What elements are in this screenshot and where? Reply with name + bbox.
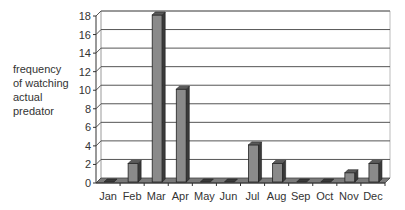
y-tick-label: 8 (85, 103, 91, 115)
y-tick-label: 4 (85, 140, 91, 152)
y-axis-ticks: 024681012141618 (79, 10, 96, 189)
bar-mar (152, 12, 165, 182)
bar-jul (249, 142, 262, 182)
y-tick-label: 14 (79, 47, 91, 59)
x-tick-label: Jun (220, 190, 238, 202)
y-tick-label: 12 (79, 66, 91, 78)
y-tick-label: 6 (85, 121, 91, 133)
bar-apr (176, 86, 189, 182)
y-tick-label: 10 (79, 84, 91, 96)
x-tick-label: Dec (363, 190, 383, 202)
x-tick-label: Jul (246, 190, 260, 202)
bar-dec (369, 160, 382, 182)
bar-nov (345, 170, 358, 182)
y-tick-label: 0 (85, 177, 91, 189)
x-tick-label: Nov (339, 190, 359, 202)
y-tick-label: 16 (79, 29, 91, 41)
gridlines (96, 11, 390, 183)
x-tick-label: Apr (172, 190, 189, 202)
x-axis-ticks: JanFebMarAprMayJunJulAugSepOctNovDec (99, 183, 385, 202)
x-tick-label: Oct (316, 190, 333, 202)
bar-aug (273, 160, 286, 182)
x-tick-label: May (194, 190, 215, 202)
bars (104, 12, 382, 182)
y-tick-label: 18 (79, 10, 91, 22)
x-tick-label: Sep (291, 190, 311, 202)
x-tick-label: Jan (99, 190, 117, 202)
x-tick-label: Feb (123, 190, 142, 202)
bar-feb (128, 160, 141, 182)
x-tick-label: Mar (147, 190, 166, 202)
bar-chart: 024681012141618 JanFebMarAprMayJunJulAug… (0, 0, 405, 210)
x-tick-label: Aug (267, 190, 287, 202)
y-tick-label: 2 (85, 158, 91, 170)
